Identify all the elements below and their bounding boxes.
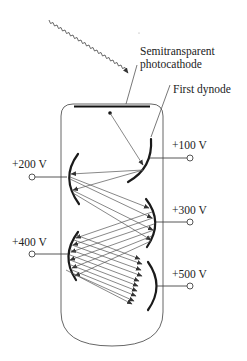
dynode-5 <box>148 262 157 310</box>
dynode-1 <box>128 139 151 182</box>
voltage-label-dynode-4: +400 V <box>12 236 47 248</box>
voltage-label-dynode-1: +100 V <box>172 139 207 151</box>
photocathode-label-line1: Semitransparent <box>140 45 216 58</box>
voltage-label-dynode-2: +200 V <box>12 158 47 170</box>
terminal-dynode-2 <box>29 174 35 180</box>
terminal-dynode-1 <box>187 155 193 161</box>
electron-trajectories <box>66 170 154 304</box>
terminal-dynode-4 <box>29 251 35 257</box>
photocathode-label-line2: photocathode <box>140 58 202 71</box>
terminal-dynode-3 <box>187 219 193 225</box>
photomultiplier-diagram: Semitransparent photocathode First dynod… <box>0 0 247 361</box>
first-dynode-leader <box>151 85 170 137</box>
photon-wave-icon <box>49 20 128 73</box>
voltage-label-dynode-5: +500 V <box>172 268 207 280</box>
photocathode-leader <box>126 65 137 104</box>
first-dynode-label: First dynode <box>173 83 231 96</box>
voltage-label-dynode-3: +300 V <box>172 204 207 216</box>
terminal-dynode-5 <box>187 283 193 289</box>
